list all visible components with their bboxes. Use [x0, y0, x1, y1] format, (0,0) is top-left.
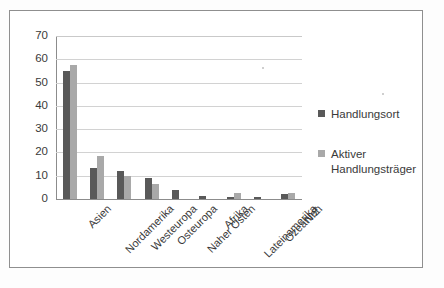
y-axis-tick-label: 20 [8, 146, 48, 158]
x-axis-category-label: Asien [86, 203, 113, 230]
x-axis-category-labels: AsienNordamerikaWesteuropaOsteuropaNaher… [56, 203, 302, 273]
bar[interactable] [124, 176, 131, 199]
y-axis-tick-label: 10 [8, 170, 48, 182]
bar-group [247, 36, 274, 199]
bar[interactable] [254, 197, 261, 199]
bar[interactable] [145, 178, 152, 199]
bar[interactable] [281, 194, 288, 199]
scan-speck [262, 67, 264, 69]
bar[interactable] [234, 193, 241, 199]
y-axis-tick-label: 0 [8, 193, 48, 205]
bar[interactable] [172, 190, 179, 199]
bar-group [111, 36, 138, 199]
y-axis-tick-label: 50 [8, 77, 48, 89]
y-axis-tick-label: 60 [8, 53, 48, 65]
bar[interactable] [97, 156, 104, 199]
bar[interactable] [199, 196, 206, 199]
plot-area [56, 36, 302, 200]
y-axis-tick-label: 40 [8, 100, 48, 112]
chart-frame: 010203040506070 AsienNordamerikaWesteuro… [9, 10, 423, 268]
bar[interactable] [90, 168, 97, 199]
legend-label: Handlungsort [331, 107, 399, 121]
bar-group [220, 36, 247, 199]
bar-group [193, 36, 220, 199]
bar[interactable] [70, 65, 77, 199]
bar[interactable] [152, 184, 159, 199]
bar-group [275, 36, 302, 199]
chart-figure: 010203040506070 AsienNordamerikaWesteuro… [0, 0, 444, 288]
x-axis-line [56, 199, 302, 200]
bar[interactable] [227, 197, 234, 199]
legend-item-handlungsort[interactable]: Handlungsort [318, 107, 430, 121]
bar-group [83, 36, 110, 199]
bar-group [138, 36, 165, 199]
y-axis-tick-label: 30 [8, 123, 48, 135]
bar[interactable] [288, 193, 295, 199]
legend-item-aktiver-handlungstraeger[interactable]: Aktiver Handlungsträger [318, 147, 430, 176]
bar[interactable] [63, 71, 70, 199]
legend-label: Aktiver Handlungsträger [331, 147, 430, 176]
bar[interactable] [117, 171, 124, 199]
scan-speck [382, 93, 384, 95]
y-axis-tick-label: 70 [8, 30, 48, 42]
legend-swatch-icon [318, 110, 325, 117]
bar-group [56, 36, 83, 199]
chart-legend: Handlungsort Aktiver Handlungsträger [318, 107, 430, 202]
bar-group [165, 36, 192, 199]
legend-swatch-icon [318, 150, 325, 157]
